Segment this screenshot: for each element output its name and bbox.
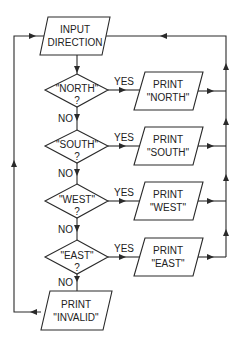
decision-east: "EAST" ?	[45, 240, 108, 274]
svg-text:"SOUTH": "SOUTH"	[56, 139, 99, 150]
arrow-down-icon	[74, 114, 80, 121]
svg-text:?: ?	[74, 262, 80, 273]
arrow-down-icon	[74, 66, 80, 73]
arrow-right-icon	[207, 143, 214, 149]
svg-text:"WEST": "WEST"	[150, 202, 186, 213]
arrow-up-icon	[223, 63, 229, 70]
print-east-node: PRINT "EAST"	[134, 238, 203, 276]
svg-text:PRINT: PRINT	[61, 299, 91, 310]
decision-west: "WEST" ?	[45, 184, 108, 218]
arrow-up-icon	[11, 160, 17, 167]
print-south-node: PRINT "SOUTH"	[134, 127, 203, 165]
svg-text:PRINT: PRINT	[153, 189, 183, 200]
decision-north: "NORTH" ?	[45, 74, 108, 107]
arrow-right-icon	[207, 254, 214, 260]
yes-label: YES	[114, 76, 134, 87]
arrow-right-icon	[207, 198, 214, 204]
yes-label: YES	[114, 187, 134, 198]
yes-label: YES	[114, 243, 134, 254]
arrow-up-icon	[223, 118, 229, 125]
svg-text:"INVALID": "INVALID"	[53, 312, 99, 323]
svg-text:"NORTH": "NORTH"	[56, 83, 99, 94]
print-invalid-node: PRINT "INVALID"	[41, 291, 112, 330]
decision-south: "SOUTH" ?	[45, 130, 108, 163]
input-direction-node: INPUT DIRECTION	[40, 17, 110, 55]
svg-text:"SOUTH": "SOUTH"	[147, 147, 190, 158]
svg-text:"WEST": "WEST"	[59, 194, 95, 205]
print-north-node: PRINT "NORTH"	[134, 72, 203, 110]
arrow-left-icon	[160, 33, 167, 39]
arrow-right-icon	[207, 88, 214, 94]
arrow-down-icon	[74, 225, 80, 232]
no-label: NO	[58, 113, 73, 124]
arrow-up-icon	[223, 174, 229, 181]
svg-text:PRINT: PRINT	[153, 134, 183, 145]
arrow-left-icon	[30, 309, 37, 315]
svg-text:?: ?	[74, 151, 80, 162]
loop-back-line-left	[14, 36, 44, 312]
svg-text:INPUT: INPUT	[60, 24, 90, 35]
svg-text:?: ?	[74, 206, 80, 217]
svg-text:PRINT: PRINT	[153, 79, 183, 90]
svg-text:"EAST": "EAST"	[60, 250, 94, 261]
arrow-right-icon	[119, 143, 126, 149]
arrow-down-icon	[74, 169, 80, 176]
arrow-right-icon	[119, 198, 126, 204]
svg-text:?: ?	[74, 95, 80, 106]
no-label: NO	[58, 277, 73, 288]
no-label: NO	[58, 168, 73, 179]
yes-label: YES	[114, 132, 134, 143]
svg-text:"NORTH": "NORTH"	[147, 92, 190, 103]
arrow-right-icon	[29, 33, 36, 39]
arrow-right-icon	[119, 254, 126, 260]
print-west-node: PRINT "WEST"	[134, 182, 203, 220]
arrow-up-icon	[223, 229, 229, 236]
svg-text:"EAST": "EAST"	[151, 258, 185, 269]
svg-text:PRINT: PRINT	[153, 245, 183, 256]
arrow-right-icon	[119, 87, 126, 93]
no-label: NO	[58, 224, 73, 235]
svg-text:DIRECTION: DIRECTION	[48, 37, 103, 48]
arrow-down-icon	[74, 276, 80, 282]
flowchart: INPUT DIRECTION "NORTH" ? YES PRINT "NOR…	[0, 0, 238, 346]
